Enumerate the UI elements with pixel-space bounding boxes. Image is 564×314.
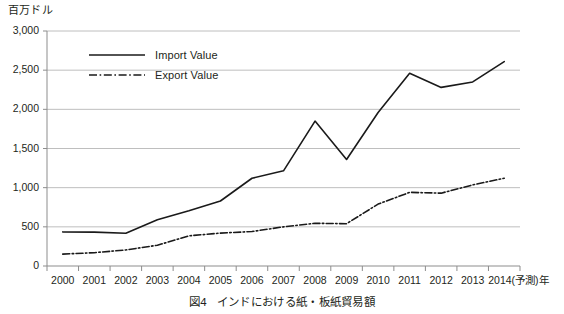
x-axis-tick-marks <box>47 266 520 271</box>
x-axis-tick-label: 2011 <box>393 274 427 286</box>
figure-caption-text: インドにおける紙・板紙貿易額 <box>217 296 375 308</box>
legend-label-import: Import Value <box>155 49 218 61</box>
x-axis-tick-label: 2004 <box>172 274 206 286</box>
y-axis-tick-label: 1,000 <box>0 182 39 193</box>
legend-label-export: Export Value <box>155 69 218 81</box>
y-axis-tick-label: 1,500 <box>0 143 39 154</box>
figure-caption: 図4インドにおける紙・板紙貿易額 <box>0 293 564 309</box>
y-axis-tick-label: 2,500 <box>0 64 39 75</box>
x-axis-tick-label: 2000 <box>46 274 80 286</box>
legend: Import Value Export Value <box>88 45 218 85</box>
plot-area <box>0 0 564 314</box>
x-axis-tick-label: 2010 <box>361 274 395 286</box>
x-axis-tick-label: 2009 <box>330 274 364 286</box>
y-axis-tick-label: 0 <box>0 260 39 271</box>
x-axis-tick-label: 2002 <box>109 274 143 286</box>
y-axis-tick-label: 2,000 <box>0 103 39 114</box>
y-axis-tick-label: 500 <box>0 221 39 232</box>
legend-item-export: Export Value <box>88 65 218 85</box>
x-axis-tick-label: 2006 <box>235 274 269 286</box>
x-axis-tick-label: 2008 <box>298 274 332 286</box>
x-axis-tick-label: 2012 <box>424 274 458 286</box>
chart-figure: 百万ドル 05001,0001,5002,0002,5003,000 20002… <box>0 0 564 314</box>
x-axis-tick-label: 2005 <box>203 274 237 286</box>
x-axis-tick-label: 2014(予測)年 <box>488 274 548 286</box>
legend-swatch-dashdot-icon <box>88 70 146 80</box>
y-axis-tick-label: 3,000 <box>0 25 39 36</box>
legend-swatch-solid-icon <box>88 50 146 60</box>
x-axis-tick-label: 2003 <box>140 274 174 286</box>
x-axis-tick-label: 2007 <box>267 274 301 286</box>
x-axis-tick-label: 2001 <box>77 274 111 286</box>
figure-caption-number: 図4 <box>189 296 207 308</box>
legend-item-import: Import Value <box>88 45 218 65</box>
x-axis-tick-label: 2013 <box>456 274 490 286</box>
series-lines <box>63 62 504 255</box>
